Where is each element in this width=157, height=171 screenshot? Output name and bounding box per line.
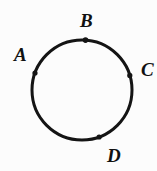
circle-outline [32,40,132,140]
circle-diagram: A B C D [0,0,157,171]
point-label-c: C [141,60,154,79]
point-marker-a [32,70,37,75]
point-marker-b [83,37,89,43]
circle-figure-svg [0,0,157,171]
point-marker-c [127,73,132,78]
point-marker-d [97,134,102,139]
point-label-b: B [80,11,93,30]
point-label-a: A [14,45,27,64]
point-label-d: D [107,146,121,165]
